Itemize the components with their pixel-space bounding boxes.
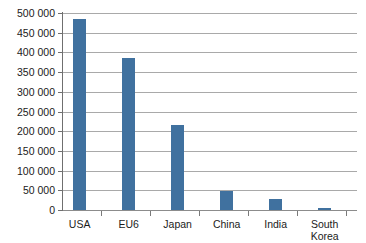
bar [73,19,86,210]
y-axis-tick-label: 450 000 [0,28,55,39]
gridline [63,72,357,73]
gridline [63,190,357,191]
y-axis-tick-label: 400 000 [0,47,55,58]
gridline [63,112,357,113]
y-axis-tick-label: 100 000 [0,166,55,177]
y-axis-tick-label: 0 [0,205,55,216]
gridline [63,151,357,152]
y-axis-tick-label: 150 000 [0,146,55,157]
y-axis-tick-label: 250 000 [0,107,55,118]
gridline [63,33,357,34]
gridline [63,52,357,53]
gridline [63,171,357,172]
y-axis-tick-label: 350 000 [0,67,55,78]
x-axis-tick [248,211,249,216]
x-axis-tick [101,211,102,216]
gridline [63,13,357,14]
gridline [63,131,357,132]
plot-area [63,13,357,210]
bar [171,125,184,210]
bar [220,191,233,210]
x-axis-tick [346,211,347,216]
y-axis-tick-label: 500 000 [0,8,55,19]
bar [122,58,135,210]
x-axis-tick [297,211,298,216]
bar [318,208,331,210]
y-axis-tick-label: 300 000 [0,87,55,98]
x-axis-tick [150,211,151,216]
y-axis-tick-label: 200 000 [0,126,55,137]
y-axis-tick-label: 50 000 [0,185,55,196]
x-axis-category-label: South Korea [290,218,360,242]
x-axis-tick [199,211,200,216]
bar [269,199,282,210]
gridline [63,210,357,211]
bar-chart: 050 000100 000150 000200 000250 000300 0… [0,0,366,243]
gridline [63,92,357,93]
